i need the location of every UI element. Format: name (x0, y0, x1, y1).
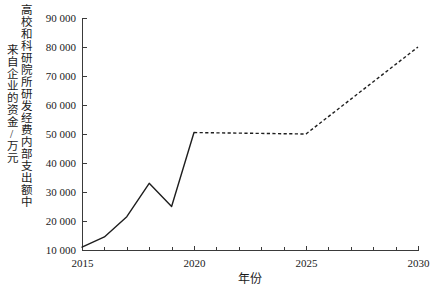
y-tick-label: 50 000 (46, 128, 77, 140)
plot-area: 10 00020 00030 00040 00050 00060 00070 0… (0, 0, 431, 292)
x-tick-label: 2025 (296, 257, 319, 269)
x-minor-tick-mark-group (105, 247, 397, 251)
y-tick-label: 60 000 (46, 99, 77, 111)
y-tick-label: 20 000 (46, 215, 77, 227)
figure-caption (0, 284, 431, 292)
x-tick-mark-group (83, 246, 419, 251)
y-tick-label: 10 000 (46, 244, 77, 256)
y-tick-label: 90 000 (46, 12, 77, 24)
chart-container: 高校和科研院所研发经费内部支出额中 来自企业的资金/万元 10 00020 00… (0, 0, 431, 292)
data-line-forecast (194, 47, 418, 134)
y-tick-label: 40 000 (46, 157, 77, 169)
x-tick-label: 2020 (184, 257, 207, 269)
x-tick-label: 2015 (72, 257, 95, 269)
x-tick-label: 2030 (408, 257, 431, 269)
data-line-historical (82, 133, 194, 248)
y-tick-label-group: 10 00020 00030 00040 00050 00060 00070 0… (46, 12, 77, 256)
y-tick-mark-group (83, 19, 87, 251)
x-tick-label-group: 2015202020252030 (72, 257, 431, 269)
y-tick-label: 70 000 (46, 70, 77, 82)
y-tick-label: 30 000 (46, 186, 77, 198)
y-tick-label: 80 000 (46, 41, 77, 53)
axis-frame (83, 18, 419, 251)
